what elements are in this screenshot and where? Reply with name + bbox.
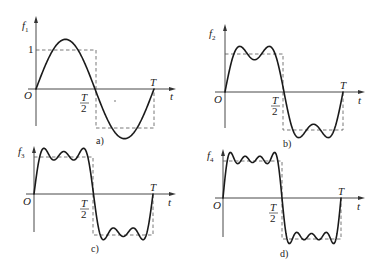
panel-caption: a) <box>96 135 104 147</box>
origin-label: O <box>214 93 222 105</box>
panel-c: f3 O t T T 2 c) <box>18 145 176 255</box>
panel-b: f2 O t T T 2 b) <box>209 24 365 150</box>
origin-label: O <box>24 89 32 101</box>
half-period-denominator: 2 <box>81 208 87 220</box>
speck <box>114 100 115 101</box>
origin-label: O <box>213 199 221 211</box>
function-label: f3 <box>18 145 25 160</box>
t-axis-label: t <box>168 196 172 208</box>
amplitude-label: 1 <box>28 43 34 55</box>
half-period-denominator: 2 <box>270 212 276 224</box>
function-label: f4 <box>207 149 214 164</box>
panel-caption: c) <box>91 243 99 255</box>
y-axis-arrow-icon <box>32 146 36 153</box>
period-label: T <box>150 76 157 88</box>
panel-caption: d) <box>280 248 288 260</box>
t-axis-label: t <box>357 200 361 212</box>
t-axis-label: t <box>358 94 362 106</box>
y-axis-arrow-icon <box>221 149 225 156</box>
period-label: T <box>150 181 157 193</box>
y-axis-arrow-icon <box>34 16 38 23</box>
period-label: T <box>340 79 347 91</box>
panel-d: f4 O t T T 2 d) <box>207 149 365 260</box>
y-axis-arrow-icon <box>223 24 227 31</box>
period-label: T <box>338 185 345 197</box>
panel-a: f1 1 O t T T 2 a) <box>22 16 176 147</box>
t-axis-label: t <box>170 90 174 102</box>
function-label: f2 <box>209 27 216 42</box>
fourier-square-wave-figure: f1 1 O t T T 2 a) f2 O t T T 2 b) f3 O <box>0 0 378 276</box>
origin-label: O <box>23 195 31 207</box>
function-label: f1 <box>22 19 29 34</box>
half-period-denominator: 2 <box>272 105 278 117</box>
panel-caption: b) <box>283 138 291 150</box>
half-period-denominator: 2 <box>81 102 87 114</box>
